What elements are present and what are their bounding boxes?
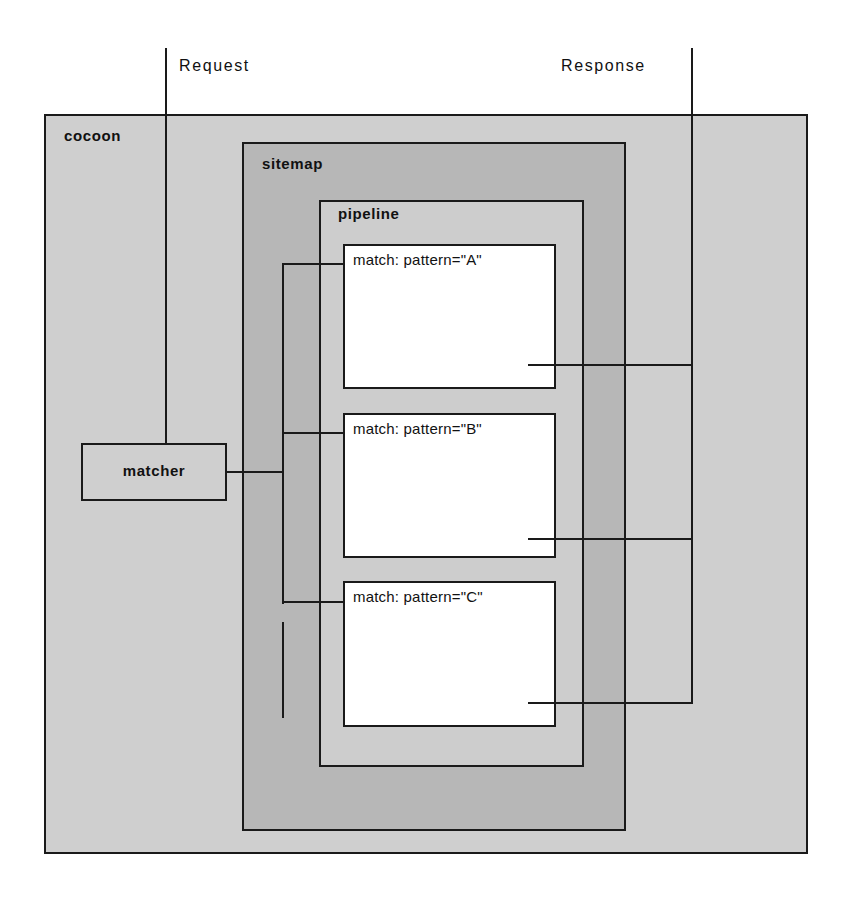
match-box-label: match: pattern="C" bbox=[353, 588, 483, 605]
matcher-box: matcher bbox=[81, 443, 227, 501]
request-trunk-line bbox=[165, 48, 167, 444]
match-b-input-line bbox=[282, 432, 344, 434]
match-a-output-line bbox=[528, 364, 692, 366]
response-trunk-line bbox=[691, 48, 693, 704]
diagram-canvas: cocoon sitemap pipeline Request Response… bbox=[0, 0, 850, 900]
cocoon-label: cocoon bbox=[64, 127, 121, 144]
match-box: match: pattern="A" bbox=[343, 244, 556, 389]
match-b-output-line bbox=[528, 538, 692, 540]
match-box: match: pattern="C" bbox=[343, 581, 556, 727]
pipeline-label: pipeline bbox=[338, 205, 399, 222]
match-c-input-line bbox=[282, 601, 344, 603]
sitemap-label: sitemap bbox=[262, 155, 323, 172]
matcher-bus-stub-line bbox=[282, 622, 284, 718]
match-box-label: match: pattern="B" bbox=[353, 420, 482, 437]
match-box: match: pattern="B" bbox=[343, 413, 556, 558]
response-label: Response bbox=[561, 57, 646, 75]
match-c-output-line bbox=[528, 702, 692, 704]
matcher-label: matcher bbox=[83, 462, 225, 479]
request-label: Request bbox=[179, 57, 250, 75]
matcher-output-line bbox=[227, 471, 284, 473]
match-box-label: match: pattern="A" bbox=[353, 251, 482, 268]
matcher-distribution-bus-line bbox=[282, 264, 284, 604]
match-a-input-line bbox=[282, 263, 344, 265]
